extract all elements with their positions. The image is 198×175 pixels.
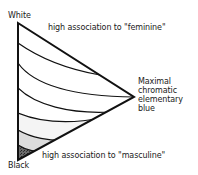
annotation-masculine: high association to "masculine" [42,151,165,160]
vertex-label-white: White [8,11,31,20]
vertex-label-blue-line-4: blue [138,104,183,113]
vertex-label-blue-line-2: chromatic [138,86,183,95]
vertex-label-blue: Maximal chromatic elementary blue [138,77,183,113]
vertex-label-black: Black [8,161,29,170]
vertex-label-blue-line-3: elementary [138,95,183,104]
annotation-feminine: high association to "feminine" [48,23,165,32]
vertex-label-blue-line-1: Maximal [138,77,183,86]
